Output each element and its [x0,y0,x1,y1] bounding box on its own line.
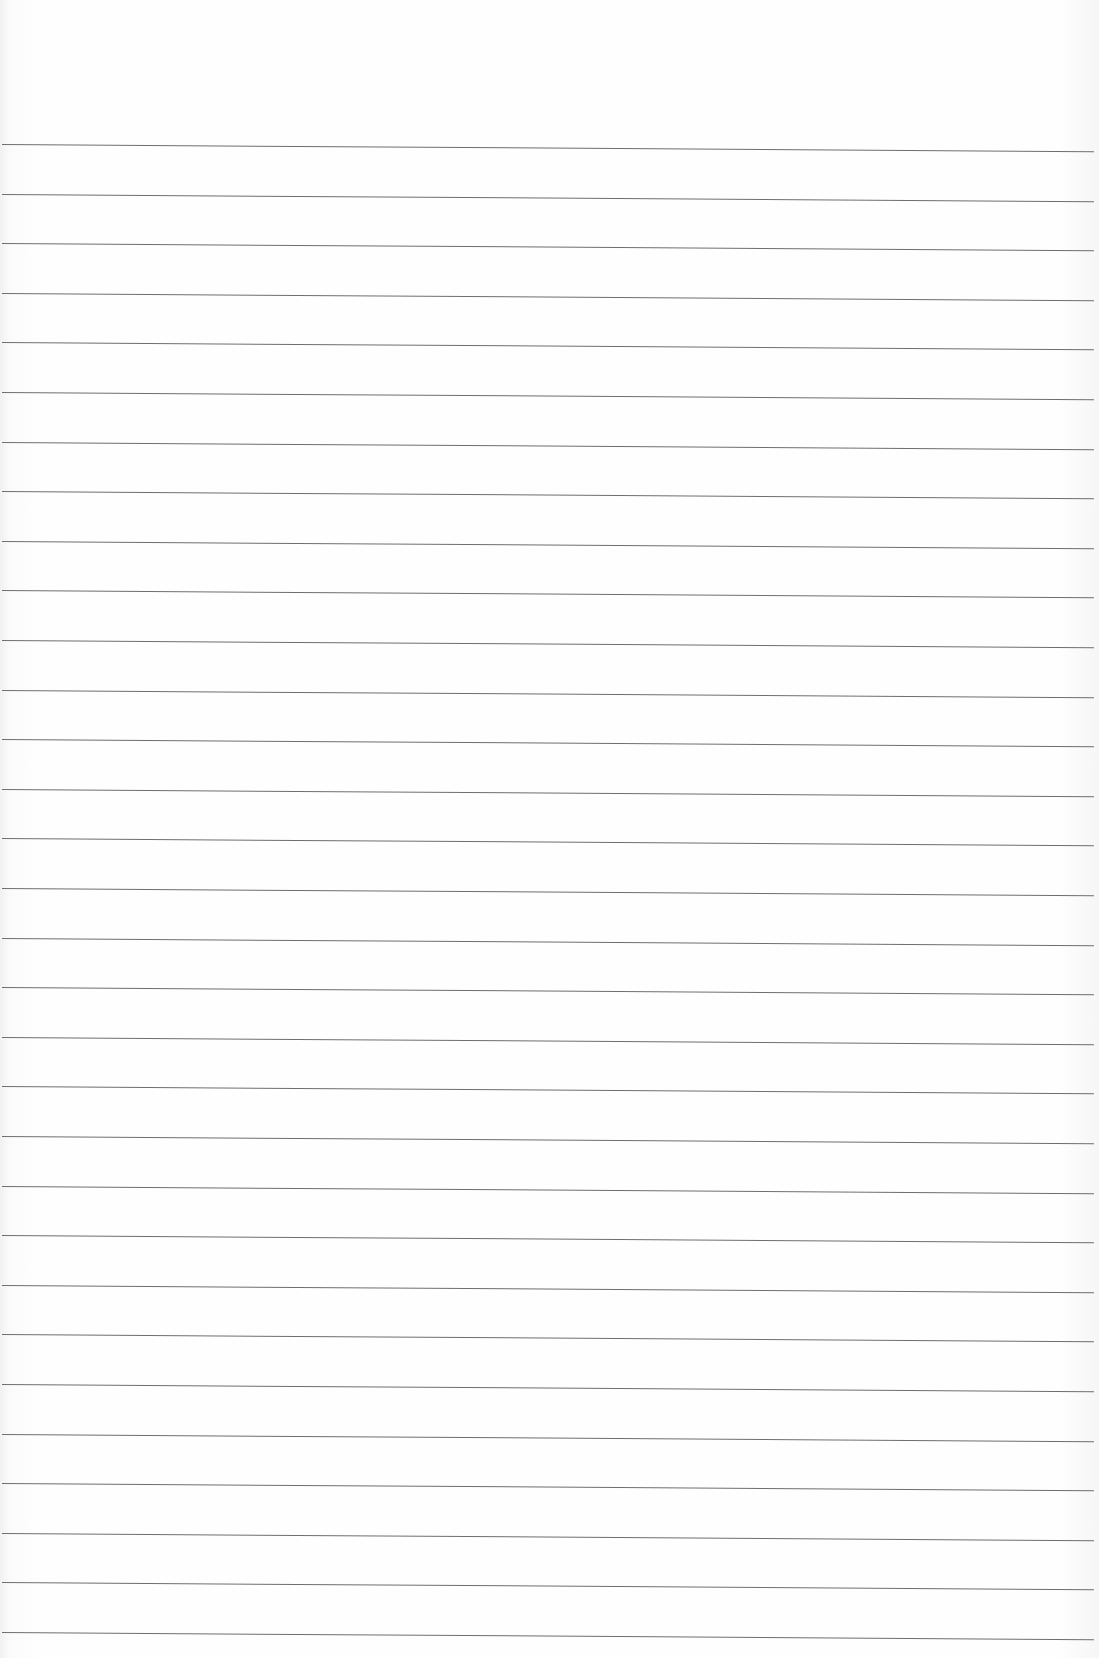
ruled-line [2,342,1094,350]
ruled-line [2,1483,1094,1491]
ruled-line [2,541,1094,549]
ruled-line [2,838,1094,846]
ruled-line [2,1086,1094,1094]
ruled-line [2,293,1094,301]
ruled-line [2,1037,1094,1045]
ruled-line [2,1384,1094,1392]
ruled-line [2,1285,1094,1293]
ruled-line [2,1582,1094,1590]
ruled-line [2,1632,1094,1640]
ruled-line [2,1434,1094,1442]
ruled-line [2,194,1094,202]
ruled-line [2,491,1094,499]
ruled-line [2,1334,1094,1342]
ruled-line [2,888,1094,896]
bleed-through-text [540,0,1099,16]
ruled-line [2,243,1094,251]
ruled-line [2,442,1094,450]
ruled-line [2,1533,1094,1541]
ruled-line [2,392,1094,400]
ruled-line [2,938,1094,946]
ruled-line [2,1235,1094,1243]
ruled-line [2,1186,1094,1194]
ruled-line [2,590,1094,598]
ruled-line [2,739,1094,747]
ruled-line [2,1136,1094,1144]
ruled-line [2,987,1094,995]
lined-paper-page [0,0,1099,1658]
ruled-line [2,789,1094,797]
ruled-line [2,144,1094,152]
ruled-line [2,640,1094,648]
ruled-line [2,690,1094,698]
